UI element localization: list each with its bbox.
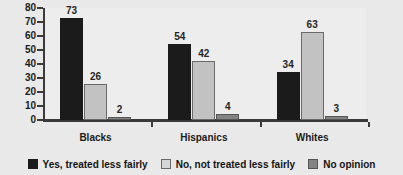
y-tick-label: 50	[2, 45, 36, 55]
x-tick-mark	[368, 122, 370, 127]
legend-item[interactable]: Yes, treated less fairly	[28, 159, 148, 170]
y-tick-label: 10	[2, 101, 36, 111]
legend-label: No, not treated less fairly	[176, 159, 295, 170]
y-tick-label: 30	[2, 73, 36, 83]
bar-value-label: 73	[56, 6, 87, 16]
legend-label: Yes, treated less fairly	[43, 159, 148, 170]
bar	[277, 72, 300, 120]
y-tick-label: 80	[2, 3, 36, 13]
y-tick-label: 40	[2, 59, 36, 69]
chart-legend: Yes, treated less fairlyNo, not treated …	[0, 155, 403, 173]
bar-chart: 80706050403020100 732625442434633 Blacks…	[0, 0, 403, 175]
gray-square-icon	[308, 159, 318, 169]
category-label: Whites	[267, 132, 357, 144]
bars-layer: 732625442434633	[43, 8, 368, 120]
black-square-icon	[28, 159, 38, 169]
bar-value-label: 3	[321, 104, 352, 114]
legend-label: No opinion	[323, 159, 375, 170]
category-label: Hispanics	[159, 132, 249, 144]
y-tick-label: 60	[2, 31, 36, 41]
bar-value-label: 4	[212, 102, 243, 112]
bar	[60, 18, 83, 120]
legend-item[interactable]: No opinion	[308, 159, 375, 170]
bar-value-label: 26	[80, 72, 111, 82]
bar-value-label: 63	[297, 20, 328, 30]
y-tick-label: 20	[2, 87, 36, 97]
bar-value-label: 2	[104, 105, 135, 115]
y-tick-label: 70	[2, 17, 36, 27]
bar-value-label: 42	[188, 49, 219, 59]
bar-value-label: 54	[164, 32, 195, 42]
x-tick-mark	[260, 122, 262, 127]
category-labels: BlacksHispanicsWhites	[43, 132, 368, 148]
y-axis-tick-labels: 80706050403020100	[0, 0, 36, 130]
bar-value-label: 34	[273, 60, 304, 70]
y-tick-label: 0	[2, 115, 36, 125]
bar	[216, 114, 239, 120]
legend-item[interactable]: No, not treated less fairly	[161, 159, 295, 170]
plot-area: 80706050403020100 732625442434633 Blacks…	[0, 0, 403, 130]
bar	[325, 116, 348, 120]
x-tick-mark	[151, 122, 153, 127]
category-label: Blacks	[51, 132, 141, 144]
bar	[108, 117, 131, 120]
light-gray-square-icon	[161, 159, 171, 169]
